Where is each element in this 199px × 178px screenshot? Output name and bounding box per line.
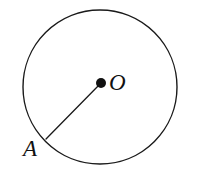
center-dot <box>96 78 106 88</box>
label-center-o: O <box>109 71 126 94</box>
radius-line-OA <box>46 83 101 139</box>
geometry-figure-canvas: O A <box>0 0 199 178</box>
label-point-a: A <box>23 137 37 160</box>
